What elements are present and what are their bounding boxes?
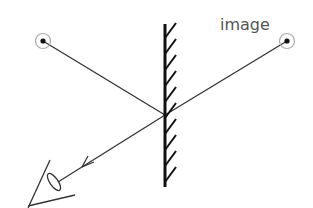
image-point-icon <box>280 34 295 49</box>
virtual-image-ray <box>165 41 287 115</box>
image-label: image <box>220 17 270 33</box>
incident-ray <box>43 41 165 115</box>
reflected-ray <box>58 115 165 182</box>
eye-icon <box>28 160 75 208</box>
object-point-icon <box>36 34 51 49</box>
diagram-canvas: image <box>0 0 313 208</box>
plane-mirror <box>165 23 176 187</box>
